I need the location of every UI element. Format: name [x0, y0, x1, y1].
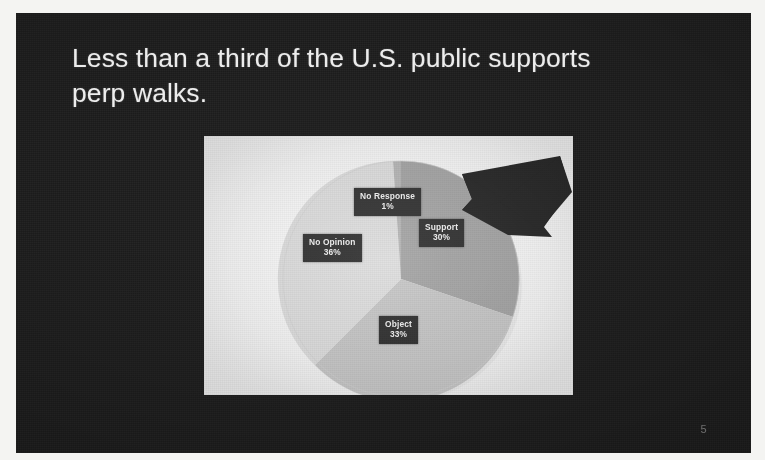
pie-data-label-no-opinion: No Opinion 36%	[303, 234, 362, 262]
pie-data-label-no-response-value: 1%	[360, 201, 415, 211]
pie-chart-image: No Response 1% Support 30% No Opinion 36…	[204, 136, 573, 395]
photographed-page: Less than a third of the U.S. public sup…	[0, 0, 765, 460]
page-title: Less than a third of the U.S. public sup…	[72, 41, 702, 111]
presentation-slide: Less than a third of the U.S. public sup…	[16, 13, 751, 453]
pie-data-label-no-opinion-value: 36%	[309, 247, 356, 257]
pie-data-label-support: Support 30%	[419, 219, 464, 247]
pie-data-label-object: Object 33%	[379, 316, 418, 344]
pie-data-label-object-value: 33%	[385, 329, 412, 339]
slide-number: 5	[701, 423, 707, 435]
pie-data-label-no-response: No Response 1%	[354, 188, 421, 216]
pie-data-label-no-response-name: No Response	[360, 191, 415, 201]
pie-chart-svg	[204, 136, 573, 395]
pie-data-label-object-name: Object	[385, 319, 412, 329]
pie-data-label-support-value: 30%	[425, 232, 458, 242]
pie-data-label-support-name: Support	[425, 222, 458, 232]
pie-data-label-no-opinion-name: No Opinion	[309, 237, 356, 247]
